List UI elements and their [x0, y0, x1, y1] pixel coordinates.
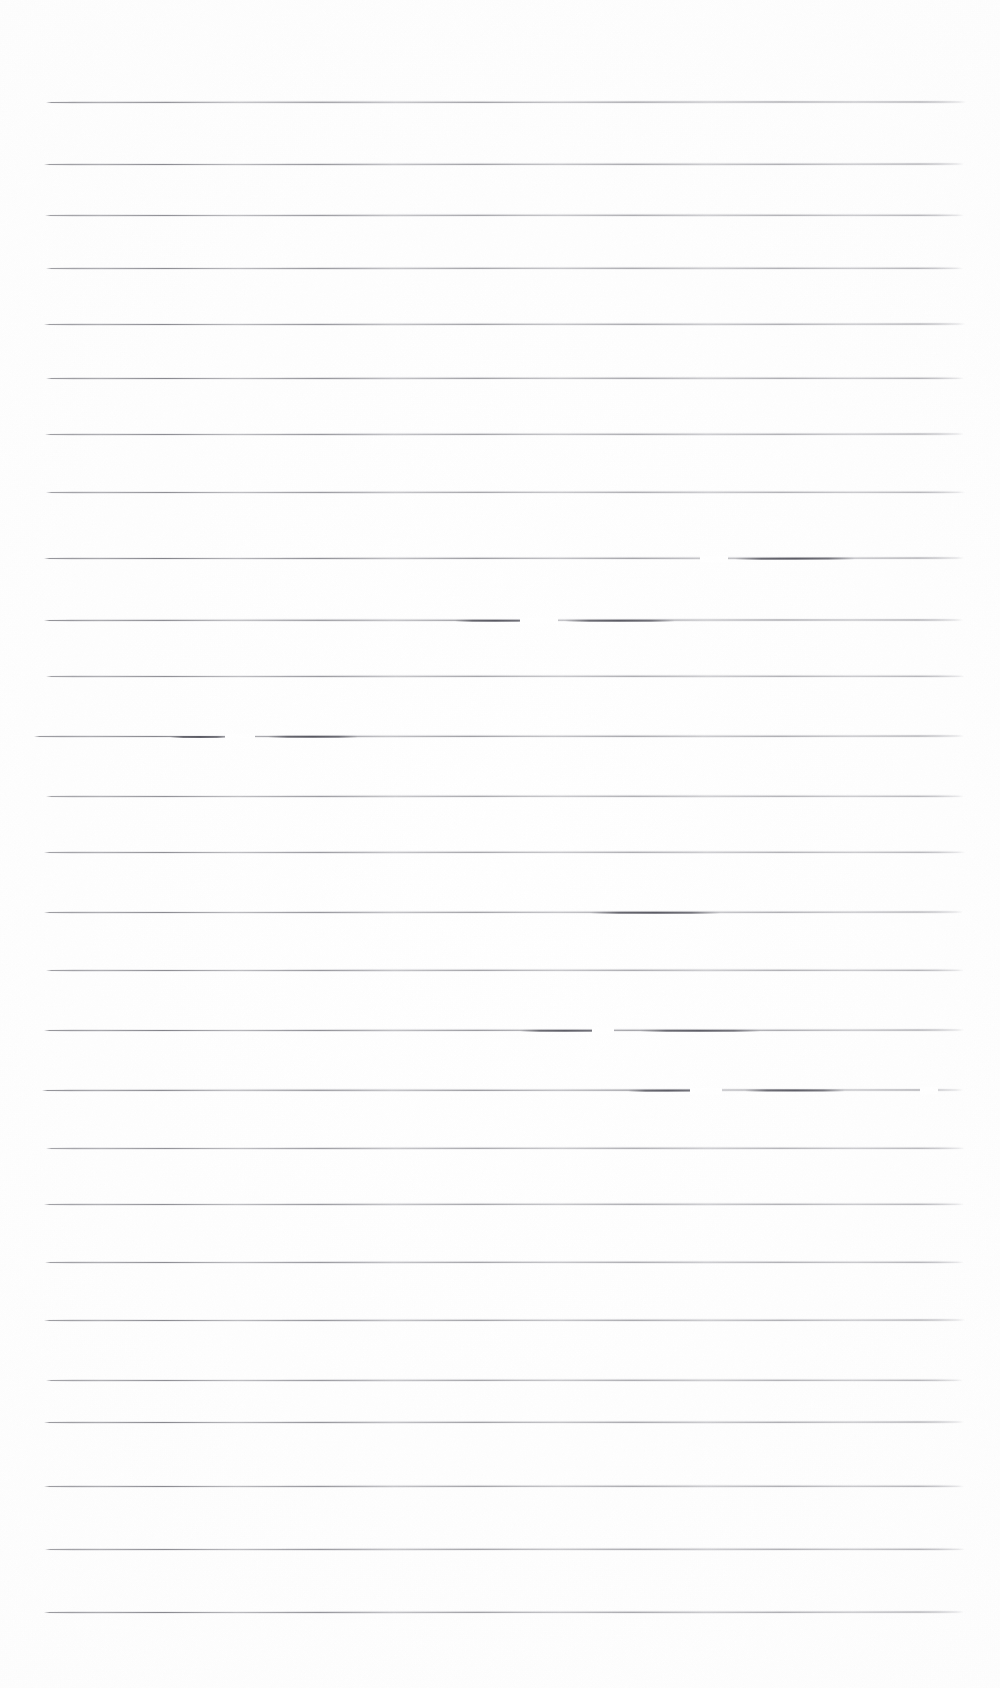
ruled-line-ink-blot: [745, 1089, 845, 1091]
paper-texture: [0, 0, 1000, 1688]
ruled-line: [0, 556, 1000, 562]
ruled-line: [0, 1087, 1000, 1094]
ruled-line: [0, 734, 1000, 740]
ruled-line-ink-blot: [640, 1029, 760, 1031]
ruled-line: [0, 1484, 1000, 1490]
ruled-line: [0, 432, 1000, 438]
ruled-line: [0, 794, 1000, 800]
ruled-line: [0, 266, 1000, 272]
ruled-line: [0, 1146, 1000, 1152]
ruled-line-gap: [920, 1087, 938, 1093]
ruled-line: [0, 1260, 1000, 1266]
scanned-page: [0, 0, 1000, 1688]
ruled-line: [0, 99, 1000, 106]
ruled-line-ink-blot: [565, 619, 675, 621]
ruled-line-gap: [225, 734, 255, 740]
ruled-line-ink-blot: [268, 736, 358, 738]
ruled-line: [0, 910, 1000, 916]
ruled-line: [0, 213, 1000, 219]
ruled-line-gap: [520, 618, 558, 624]
ruled-line: [0, 674, 1000, 680]
ruled-line-gap: [690, 1088, 722, 1094]
ruled-line: [0, 1318, 1000, 1324]
ruled-line-ink-blot: [170, 736, 230, 738]
ruled-line: [0, 162, 1000, 168]
ruled-line: [0, 1420, 1000, 1426]
ruled-line: [0, 322, 1000, 328]
ruled-line: [0, 968, 1000, 974]
ruled-line: [0, 376, 1000, 382]
ruled-line: [0, 1610, 1000, 1616]
scan-speckle-overlay: [0, 0, 1000, 1688]
ruled-line: [0, 490, 1000, 496]
ruled-line: [0, 1028, 1000, 1034]
ruled-line-ink-blot: [590, 911, 720, 913]
ruled-line-gap: [700, 556, 728, 562]
ruled-line: [0, 617, 1000, 624]
ruled-line-gap: [592, 1028, 614, 1034]
ruled-line: [0, 1547, 1000, 1553]
ruled-line-ink-blot: [735, 557, 855, 559]
ruled-line: [0, 850, 1000, 856]
ruled-line: [0, 1378, 1000, 1384]
ruled-line: [0, 1202, 1000, 1208]
